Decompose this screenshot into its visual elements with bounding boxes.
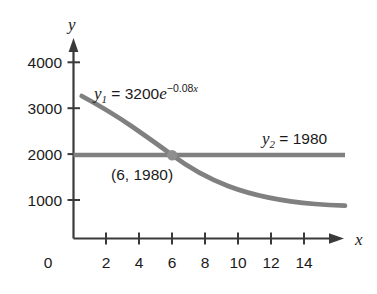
y1-plot-line: [82, 96, 345, 160]
x-axis-arrow-icon: [329, 233, 344, 244]
y-tick-label-2000: 2000: [28, 146, 63, 163]
y1-label-exp: −0.08: [167, 82, 194, 94]
x-tick-label-0: 0: [44, 254, 53, 271]
x-axis-title: x: [354, 230, 363, 249]
series-y1-label: y1 = 3200e−0.08x: [92, 82, 198, 105]
y-tick-label-4000: 4000: [28, 54, 63, 71]
y2-label-var: y: [260, 129, 270, 148]
x-tick-label-12: 12: [262, 254, 279, 271]
y-tick-label-1000: 1000: [28, 192, 63, 209]
y-tick-label-3000: 3000: [28, 100, 63, 117]
x-tick-label-2: 2: [102, 254, 111, 271]
x-tick-label-4: 4: [135, 254, 144, 271]
x-tick-label-14: 14: [295, 254, 313, 271]
series-y2-label: y2 = 1980: [260, 129, 328, 150]
x-tick-label-10: 10: [229, 254, 247, 271]
y1-label-exp-var: x: [192, 83, 198, 94]
y-axis-arrow-icon: [69, 38, 79, 52]
y1-plotted-series: [82, 96, 345, 160]
y1-label-eq: =: [107, 85, 125, 102]
y2-label-eq: =: [275, 130, 293, 147]
y1-curve-plot: [82, 96, 345, 160]
y1-label-coeff: 3200: [125, 85, 160, 102]
x-axis-tick-labels: 0 2 4 6 8 10 12 14: [44, 254, 313, 271]
y-axis-title: y: [66, 15, 76, 34]
chart-figure: 4000 3000 2000 1000 0 2 4 6 8 10 12 14 y: [0, 0, 377, 294]
y-axis-tick-labels: 4000 3000 2000 1000: [28, 54, 63, 209]
x-tick-label-8: 8: [201, 254, 210, 271]
y2-label-value: 1980: [293, 130, 328, 147]
y1-label-var: y: [92, 84, 102, 103]
x-tick-label-6: 6: [168, 254, 177, 271]
intersection-marker[interactable]: [167, 150, 177, 160]
exponential-decay-chart: 4000 3000 2000 1000 0 2 4 6 8 10 12 14 y: [0, 0, 377, 294]
y1-curve-display[interactable]: [82, 96, 345, 206]
intersection-point-label: (6, 1980): [111, 166, 173, 183]
